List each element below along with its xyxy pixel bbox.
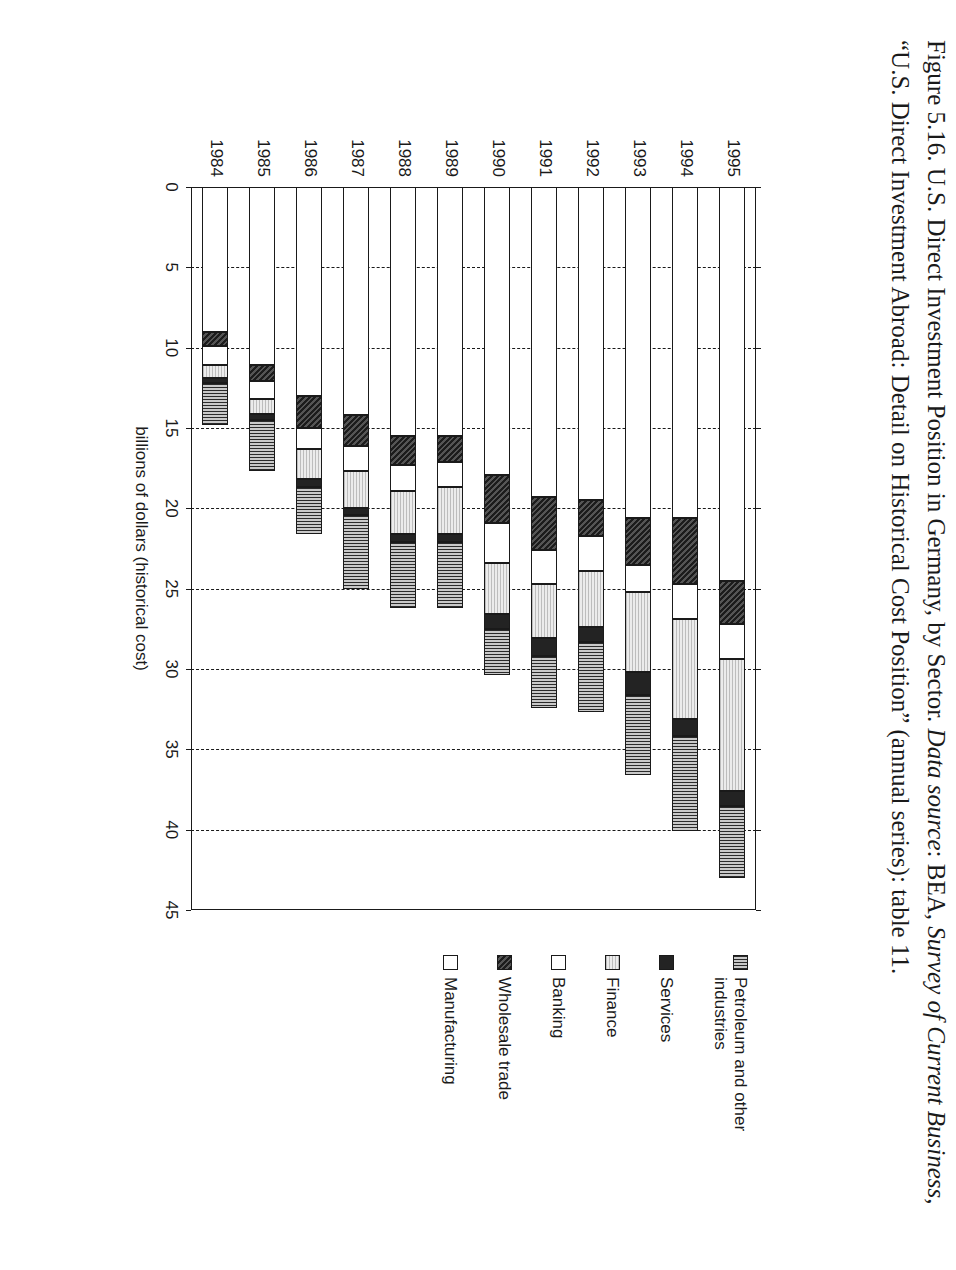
axis-tick: [756, 267, 761, 268]
bar-segment-wholesale-trade: [672, 518, 698, 584]
legend-item-services[interactable]: Services: [656, 955, 676, 1165]
figure-caption-area: Figure 5.16. U.S. Direct Investment Posi…: [860, 0, 956, 1270]
bar-segment-banking: [343, 446, 369, 472]
bar-segment-finance: [578, 571, 604, 627]
bar-segment-wholesale-trade: [484, 475, 510, 523]
bar-segment-manufacturing: [719, 187, 745, 581]
bar-segment-finance: [343, 471, 369, 508]
bar-segment-services: [719, 791, 745, 805]
bar-segment-banking: [296, 428, 322, 449]
axis-tick: [186, 910, 191, 911]
bar-segment-manufacturing: [296, 187, 322, 396]
bar-segment-services: [296, 479, 322, 487]
bar-segment-petroleum-and-other-industries: [625, 695, 651, 775]
value-tick-label: 35: [161, 729, 181, 769]
bar-1987: [343, 95, 369, 1175]
bar-segment-banking: [249, 381, 275, 399]
legend-item-petroleum-and-other-industries[interactable]: Petroleum and other industries: [710, 955, 750, 1165]
bar-segment-banking: [531, 550, 557, 584]
legend-label: Manufacturing: [440, 977, 460, 1085]
caption-source-publication: Survey of Current Business: [923, 926, 950, 1198]
bar-segment-services: [531, 638, 557, 656]
bar-segment-banking: [625, 565, 651, 592]
bar-segment-petroleum-and-other-industries: [578, 642, 604, 713]
axis-tick: [756, 428, 761, 429]
legend-swatch-icon: [443, 955, 458, 970]
bar-segment-finance: [531, 584, 557, 639]
bar-segment-petroleum-and-other-industries: [672, 736, 698, 831]
axis-tick: [186, 348, 191, 349]
bar-segment-banking: [672, 584, 698, 619]
axis-tick: [186, 589, 191, 590]
legend-label: Banking: [548, 977, 568, 1038]
axis-tick: [186, 508, 191, 509]
bar-segment-manufacturing: [437, 187, 463, 436]
axis-tick: [756, 508, 761, 509]
bar-segment-wholesale-trade: [390, 436, 416, 465]
chart-gridlines: [191, 187, 756, 910]
legend-item-manufacturing[interactable]: Manufacturing: [440, 955, 460, 1165]
bar-segment-banking: [484, 523, 510, 563]
bar-segment-petroleum-and-other-industries: [390, 542, 416, 608]
category-tick-label: 1987: [347, 125, 367, 177]
bar-segment-petroleum-and-other-industries: [484, 629, 510, 676]
bar-segment-services: [484, 614, 510, 628]
bar-segment-finance: [672, 619, 698, 719]
legend-swatch-icon: [733, 955, 748, 970]
category-tick-label: 1995: [723, 125, 743, 177]
gridline: [191, 348, 756, 349]
bar-segment-finance: [390, 491, 416, 534]
axis-tick: [756, 749, 761, 750]
axis-tick: [186, 428, 191, 429]
bar-segment-finance: [484, 563, 510, 614]
legend-swatch-icon: [605, 955, 620, 970]
value-tick-label: 5: [161, 247, 181, 287]
bar-segment-petroleum-and-other-industries: [202, 383, 228, 425]
value-tick-label: 10: [161, 328, 181, 368]
category-tick-label: 1991: [535, 125, 555, 177]
bar-segment-petroleum-and-other-industries: [719, 806, 745, 878]
axis-tick: [756, 910, 761, 911]
legend-item-finance[interactable]: Finance: [602, 955, 622, 1165]
bar-segment-manufacturing: [390, 187, 416, 436]
legend-swatch-icon: [551, 955, 566, 970]
axis-tick: [756, 187, 761, 188]
gridline: [191, 749, 756, 750]
bar-segment-finance: [625, 592, 651, 672]
caption-title: U.S. Direct Investment Position in Germa…: [923, 168, 950, 723]
caption-source-label: Data source: [923, 729, 950, 851]
chart-legend: Petroleum and other industriesServicesFi…: [406, 955, 750, 1165]
figure-caption: Figure 5.16. U.S. Direct Investment Posi…: [883, 40, 954, 1230]
category-tick-label: 1984: [206, 125, 226, 177]
legend-swatch-icon: [659, 955, 674, 970]
axis-tick: [186, 669, 191, 670]
legend-item-banking[interactable]: Banking: [548, 955, 568, 1165]
bar-segment-petroleum-and-other-industries: [343, 515, 369, 589]
category-tick-label: 1992: [582, 125, 602, 177]
category-tick-label: 1989: [441, 125, 461, 177]
bar-segment-wholesale-trade: [437, 436, 463, 462]
bar-segment-wholesale-trade: [202, 332, 228, 346]
gridline: [191, 267, 756, 268]
bar-segment-services: [672, 719, 698, 737]
bar-segment-services: [578, 627, 604, 641]
axis-tick: [186, 187, 191, 188]
category-tick-label: 1986: [300, 125, 320, 177]
bar-segment-wholesale-trade: [343, 415, 369, 446]
bar-segment-finance: [249, 399, 275, 413]
bar-segment-banking: [578, 536, 604, 571]
bar-segment-wholesale-trade: [578, 500, 604, 535]
bar-segment-services: [625, 672, 651, 694]
legend-label: Services: [656, 977, 676, 1042]
axis-tick: [186, 267, 191, 268]
axis-tick: [756, 830, 761, 831]
value-tick-label: 45: [161, 890, 181, 930]
gridline: [191, 669, 756, 670]
bar-segment-finance: [719, 659, 745, 791]
bar-segment-manufacturing: [625, 187, 651, 518]
bar-segment-wholesale-trade: [625, 518, 651, 565]
axis-tick: [186, 749, 191, 750]
bar-segment-manufacturing: [343, 187, 369, 415]
legend-item-wholesale-trade[interactable]: Wholesale trade: [494, 955, 514, 1165]
category-tick-label: 1988: [394, 125, 414, 177]
